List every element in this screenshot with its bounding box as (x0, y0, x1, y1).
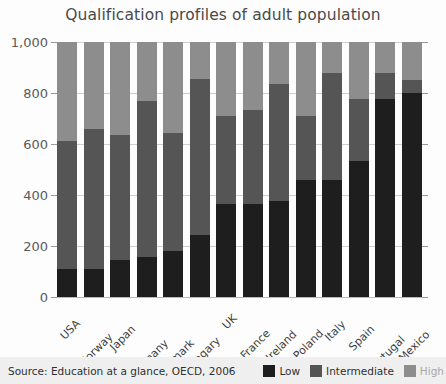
bar-japan[interactable] (110, 42, 130, 297)
legend-item-intermediate[interactable]: Intermediate (310, 365, 394, 377)
bar-segment-high (57, 42, 77, 141)
x-axis-label-italy: Italy (322, 318, 348, 344)
legend-label-intermediate: Intermediate (326, 365, 394, 377)
y-axis-tick-right (422, 297, 428, 298)
bar-segment-low (402, 93, 422, 297)
y-axis-tick (51, 297, 57, 298)
legend-swatch-high (404, 365, 416, 377)
bar-uk[interactable] (216, 42, 236, 297)
bar-segment-high (296, 42, 316, 116)
bar-segment-intermediate (190, 79, 210, 235)
bar-segment-intermediate (110, 135, 130, 260)
legend-item-high[interactable]: High (404, 365, 444, 377)
legend-item-low[interactable]: Low (263, 365, 300, 377)
bar-segment-low (322, 180, 342, 297)
bar-italy[interactable] (322, 42, 342, 297)
legend-label-high: High (420, 365, 444, 377)
bar-mexico[interactable] (402, 42, 422, 297)
bar-germany[interactable] (137, 42, 157, 297)
bar-segment-high (322, 42, 342, 73)
chart-legend: LowIntermediateHigh (263, 365, 444, 377)
bar-segment-low (375, 99, 395, 297)
chart-figure: Qualification profiles of adult populati… (0, 0, 446, 384)
bar-segment-intermediate (216, 116, 236, 204)
y-axis-tick-label: 600 (23, 137, 48, 152)
x-axis-label-uk: UK (220, 312, 240, 332)
bar-usa[interactable] (57, 42, 77, 297)
y-axis-tick-label: 400 (23, 188, 48, 203)
bar-segment-low (349, 161, 369, 297)
y-axis-tick-label: 200 (23, 239, 48, 254)
bar-segment-low (57, 269, 77, 297)
bar-segment-intermediate (57, 141, 77, 269)
bar-segment-intermediate (296, 116, 316, 180)
bar-segment-intermediate (163, 133, 183, 252)
y-axis-tick-right (422, 195, 428, 196)
source-note: Source: Education at a glance, OECD, 200… (8, 365, 236, 377)
bar-norway[interactable] (84, 42, 104, 297)
bar-segment-high (137, 42, 157, 101)
x-axis-label-usa: USA (58, 317, 83, 342)
bar-segment-intermediate (269, 84, 289, 201)
legend-swatch-intermediate (310, 365, 322, 377)
bar-segment-low (84, 269, 104, 297)
legend-label-low: Low (279, 365, 300, 377)
x-axis-labels: USANorwayJapanGermanyDenmarkHungaryUKFra… (57, 299, 422, 355)
bar-segment-intermediate (402, 80, 422, 93)
bar-segment-high (375, 42, 395, 73)
bar-segment-intermediate (243, 110, 263, 204)
bar-france[interactable] (243, 42, 263, 297)
gridline (57, 297, 422, 298)
bar-segment-low (296, 180, 316, 297)
y-axis-tick-right (422, 42, 428, 43)
bar-ireland[interactable] (269, 42, 289, 297)
bar-segment-low (243, 204, 263, 297)
bar-segment-high (190, 42, 210, 79)
bar-segment-high (163, 42, 183, 133)
bar-hungary[interactable] (190, 42, 210, 297)
bar-portugal[interactable] (375, 42, 395, 297)
y-axis-tick-label: 0 (40, 290, 48, 305)
bar-spain[interactable] (349, 42, 369, 297)
bar-segment-intermediate (375, 73, 395, 100)
chart-footer: Source: Education at a glance, OECD, 200… (0, 357, 446, 384)
bar-segment-low (163, 251, 183, 297)
x-axis-label-spain: Spain (346, 323, 377, 354)
bar-segment-high (110, 42, 130, 135)
bar-segment-low (269, 201, 289, 297)
bar-segment-low (190, 235, 210, 297)
bar-segment-intermediate (349, 99, 369, 160)
bar-segment-high (349, 42, 369, 99)
y-axis-tick-right (422, 246, 428, 247)
bar-segment-low (137, 257, 157, 297)
x-axis-label-japan: Japan (107, 323, 138, 354)
y-axis-tick-right (422, 144, 428, 145)
plot-area: 02004006008001,000 (57, 42, 422, 297)
bar-segment-low (216, 204, 236, 297)
bar-poland[interactable] (296, 42, 316, 297)
bar-denmark[interactable] (163, 42, 183, 297)
bar-segment-intermediate (137, 101, 157, 258)
bar-segment-intermediate (322, 73, 342, 180)
bar-segment-high (269, 42, 289, 84)
y-axis-tick-label: 1,000 (11, 35, 48, 50)
bar-segment-high (402, 42, 422, 80)
bar-segment-high (243, 42, 263, 110)
bar-segment-low (110, 260, 130, 297)
y-axis-tick-label: 800 (23, 86, 48, 101)
bar-segment-intermediate (84, 129, 104, 269)
bar-segment-high (84, 42, 104, 129)
bar-group (57, 42, 422, 297)
legend-swatch-low (263, 365, 275, 377)
chart-title: Qualification profiles of adult populati… (0, 6, 446, 24)
bar-segment-high (216, 42, 236, 116)
y-axis-tick-right (422, 93, 428, 94)
